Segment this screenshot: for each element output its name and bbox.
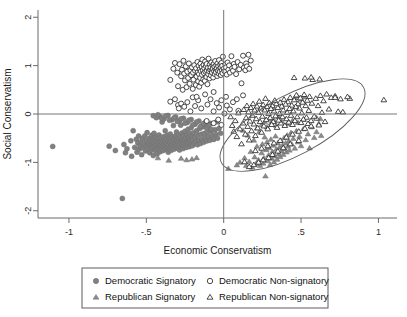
x-axis-title: Economic Conservatism	[164, 245, 272, 256]
data-point	[224, 94, 229, 99]
data-point	[172, 97, 177, 102]
data-point	[186, 118, 191, 123]
data-point	[248, 58, 253, 63]
data-point	[139, 152, 144, 157]
data-point	[132, 145, 137, 150]
data-point	[167, 118, 172, 123]
y-tick-label: 0	[23, 111, 33, 116]
legend-label: Democratic Non-signatory	[219, 275, 329, 286]
data-point	[215, 136, 220, 141]
chart-canvas: -1-.50.51-2-1012 Economic Conservatism S…	[0, 0, 407, 317]
data-point	[232, 64, 237, 69]
data-point	[185, 100, 190, 105]
data-point	[205, 82, 210, 87]
data-point	[171, 123, 176, 128]
data-point	[219, 98, 224, 103]
data-point	[168, 99, 173, 104]
legend-entry: Republican Non-signatory	[207, 291, 329, 302]
data-point	[107, 144, 112, 149]
data-point	[194, 119, 199, 124]
legend-label: Republican Non-signatory	[219, 291, 329, 302]
data-point	[113, 148, 118, 153]
data-point	[193, 104, 198, 109]
data-point	[163, 128, 168, 133]
data-point	[247, 66, 252, 71]
data-point	[179, 116, 184, 121]
y-tick-label: 2	[23, 15, 33, 20]
data-point	[120, 196, 125, 201]
x-tick-label: 0	[221, 227, 226, 237]
x-tick-label: -.5	[141, 227, 152, 237]
data-point	[50, 144, 55, 149]
data-point	[182, 104, 187, 109]
data-point	[208, 97, 213, 102]
y-axis-title: Social Conservatism	[2, 68, 13, 159]
scatter-plot-figure: -1-.50.51-2-1012 Economic Conservatism S…	[0, 0, 407, 317]
data-point	[188, 109, 193, 114]
data-point	[176, 106, 181, 111]
data-point	[227, 107, 232, 112]
legend-entry: Democratic Non-signatory	[207, 275, 329, 286]
data-point	[218, 131, 223, 136]
data-point	[145, 130, 150, 135]
x-tick-label: 1	[376, 227, 381, 237]
data-point	[219, 122, 224, 127]
data-point	[187, 81, 192, 86]
data-point	[172, 60, 177, 65]
data-point	[168, 77, 173, 82]
data-point	[220, 54, 225, 59]
legend-entry: Democratic Signatory	[93, 275, 196, 286]
data-point	[246, 52, 251, 57]
data-point	[211, 121, 216, 126]
x-tick-label: .5	[297, 227, 305, 237]
data-point	[241, 53, 246, 58]
data-point	[234, 72, 239, 77]
legend-entry: Republican Signatory	[93, 291, 195, 302]
legend-marker-filled-circle	[93, 278, 98, 283]
data-point	[131, 128, 136, 133]
data-point	[217, 105, 222, 110]
data-point	[205, 102, 210, 107]
data-point	[128, 138, 133, 143]
y-tick-label: -1	[23, 158, 33, 166]
data-point	[216, 117, 221, 122]
data-point	[241, 93, 246, 98]
legend-marker-open-circle	[207, 278, 212, 283]
legend-label: Republican Signatory	[105, 291, 196, 302]
data-point	[171, 66, 176, 71]
data-point	[239, 81, 244, 86]
data-point	[204, 119, 209, 124]
x-tick-label: -1	[65, 227, 73, 237]
data-point	[234, 97, 239, 102]
data-point	[124, 146, 129, 151]
legend-label: Democratic Signatory	[105, 275, 196, 286]
data-point	[209, 127, 214, 132]
y-tick-label: -2	[23, 207, 33, 215]
data-point	[121, 142, 126, 147]
data-point	[203, 92, 208, 97]
data-point	[199, 106, 204, 111]
data-point	[194, 94, 199, 99]
data-point	[229, 54, 234, 59]
chart-legend: Democratic SignatoryDemocratic Non-signa…	[82, 268, 329, 308]
data-point	[176, 84, 181, 89]
y-tick-label: 1	[23, 63, 33, 68]
data-point	[129, 154, 134, 159]
data-point	[211, 89, 216, 94]
data-point	[155, 112, 160, 117]
data-point	[181, 58, 186, 63]
data-point	[211, 109, 216, 114]
